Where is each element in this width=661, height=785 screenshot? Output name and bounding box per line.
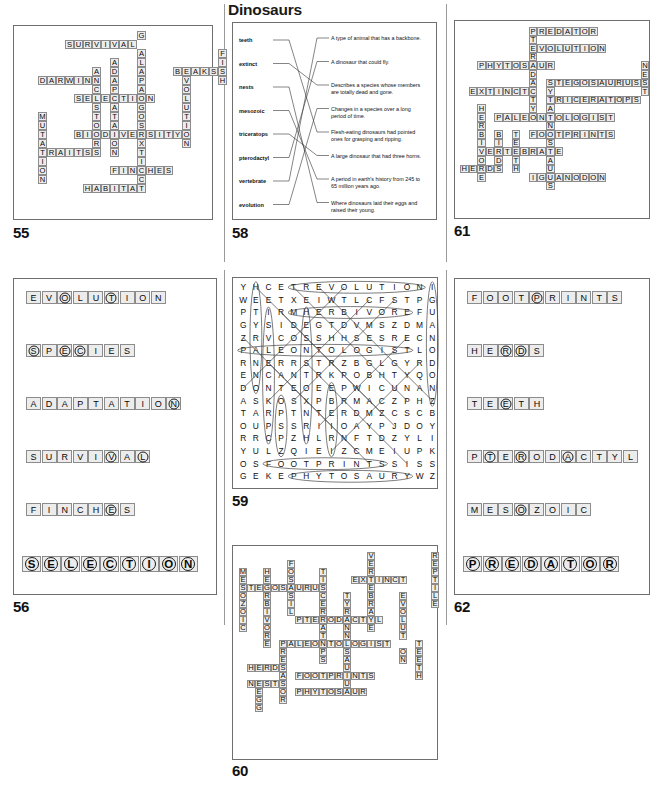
- crossword-cell[interactable]: O: [555, 113, 564, 122]
- crossword-cell[interactable]: E: [128, 130, 137, 139]
- word-search-letter[interactable]: H: [300, 306, 313, 319]
- word-search-letter[interactable]: B: [338, 306, 351, 319]
- word-search-letter[interactable]: S: [262, 319, 275, 332]
- word-search-letter[interactable]: W: [237, 294, 250, 307]
- letter-box[interactable]: A: [26, 397, 41, 410]
- word-search-letter[interactable]: S: [376, 319, 389, 332]
- word-search-letter[interactable]: E: [325, 382, 338, 395]
- crossword-cell[interactable]: U: [563, 44, 572, 53]
- crossword-cell[interactable]: T: [383, 640, 391, 648]
- word-search-letter[interactable]: H: [376, 369, 389, 382]
- crossword-cell[interactable]: T: [606, 96, 615, 105]
- word-search-letter[interactable]: U: [363, 281, 376, 294]
- word-search-letter[interactable]: K: [262, 394, 275, 407]
- word-search-letter[interactable]: H: [250, 281, 263, 294]
- word-search-letter[interactable]: C: [262, 281, 275, 294]
- crossword-cell[interactable]: O: [137, 112, 146, 121]
- word-search-letter[interactable]: Y: [401, 369, 414, 382]
- crossword-cell[interactable]: S: [319, 656, 327, 664]
- word-search-letter[interactable]: S: [388, 457, 401, 470]
- letter-box[interactable]: T: [514, 291, 529, 304]
- word-search-letter[interactable]: D: [350, 407, 363, 420]
- letter-box[interactable]: I: [561, 291, 576, 304]
- word-search-letter[interactable]: Q: [287, 445, 300, 458]
- letter-box[interactable]: D: [514, 344, 529, 357]
- crossword-cell[interactable]: O: [137, 94, 146, 103]
- word-search-letter[interactable]: C: [413, 407, 426, 420]
- word-search-letter[interactable]: W: [325, 294, 338, 307]
- crossword-cell[interactable]: N: [351, 672, 359, 680]
- word-search-letter[interactable]: T: [313, 344, 326, 357]
- word-search-letter[interactable]: G: [363, 357, 376, 370]
- letter-box[interactable]: I: [88, 344, 103, 357]
- letter-box[interactable]: T: [104, 291, 119, 304]
- crossword-cell[interactable]: N: [537, 113, 546, 122]
- word-search-letter[interactable]: C: [413, 331, 426, 344]
- word-search-letter[interactable]: I: [275, 319, 288, 332]
- crossword-cell[interactable]: R: [589, 96, 598, 105]
- letter-box[interactable]: I: [42, 503, 57, 516]
- crossword-cell[interactable]: S: [74, 94, 83, 103]
- word-search-letter[interactable]: T: [300, 369, 313, 382]
- word-search-letter[interactable]: V: [363, 306, 376, 319]
- word-search-letter[interactable]: I: [363, 382, 376, 395]
- crossword-cell[interactable]: S: [279, 584, 287, 592]
- crossword-cell[interactable]: S: [632, 79, 641, 88]
- crossword-cell[interactable]: F: [110, 166, 119, 175]
- word-search-letter[interactable]: N: [287, 369, 300, 382]
- word-search-letter[interactable]: G: [237, 319, 250, 332]
- crossword-cell[interactable]: A: [92, 67, 101, 76]
- letter-box[interactable]: S: [498, 503, 513, 516]
- letter-box[interactable]: E: [26, 291, 41, 304]
- word-search-letter[interactable]: R: [300, 420, 313, 433]
- crossword-cell[interactable]: A: [137, 67, 146, 76]
- word-search-letter[interactable]: O: [287, 457, 300, 470]
- word-search-letter[interactable]: O: [250, 382, 263, 395]
- crossword-cell[interactable]: U: [295, 584, 303, 592]
- word-search-letter[interactable]: I: [426, 432, 439, 445]
- crossword-cell[interactable]: A: [529, 79, 538, 88]
- word-search-letter[interactable]: O: [350, 344, 363, 357]
- word-search-letter[interactable]: R: [338, 394, 351, 407]
- crossword-cell[interactable]: I: [38, 157, 47, 166]
- crossword-cell[interactable]: T: [38, 130, 47, 139]
- word-search-letter[interactable]: O: [300, 382, 313, 395]
- word-search-letter[interactable]: U: [250, 445, 263, 458]
- crossword-cell[interactable]: M: [38, 112, 47, 121]
- crossword-cell[interactable]: V: [182, 76, 191, 85]
- word-search-letter[interactable]: U: [250, 420, 263, 433]
- word-search-letter[interactable]: S: [401, 407, 414, 420]
- word-search-letter[interactable]: A: [363, 470, 376, 483]
- crossword-cell[interactable]: S: [335, 688, 343, 696]
- word-search-letter[interactable]: S: [313, 331, 326, 344]
- word-search-letter[interactable]: C: [275, 331, 288, 344]
- crossword-cell[interactable]: T: [399, 576, 407, 584]
- word-search-letter[interactable]: P: [313, 457, 326, 470]
- crossword-cell[interactable]: T: [182, 112, 191, 121]
- word-search-letter[interactable]: P: [237, 344, 250, 357]
- word-search-letter[interactable]: A: [426, 319, 439, 332]
- word-search-letter[interactable]: E: [275, 281, 288, 294]
- crossword-cell[interactable]: V: [537, 44, 546, 53]
- letter-box[interactable]: R: [57, 450, 72, 463]
- letter-box[interactable]: C: [576, 450, 591, 463]
- word-search-letter[interactable]: A: [237, 394, 250, 407]
- word-search-letter[interactable]: W: [413, 470, 426, 483]
- letter-box[interactable]: S: [22, 556, 41, 572]
- word-search-letter[interactable]: Z: [376, 407, 389, 420]
- crossword-cell[interactable]: A: [110, 58, 119, 67]
- word-search-letter[interactable]: S: [287, 394, 300, 407]
- crossword-cell[interactable]: A: [92, 184, 101, 193]
- crossword-cell[interactable]: E: [477, 173, 486, 182]
- word-search-letter[interactable]: T: [325, 319, 338, 332]
- letter-box[interactable]: R: [514, 450, 529, 463]
- word-search-letter[interactable]: U: [388, 382, 401, 395]
- crossword-cell[interactable]: H: [486, 61, 495, 70]
- letter-box[interactable]: A: [120, 450, 135, 463]
- crossword-cell[interactable]: H: [83, 184, 92, 193]
- crossword-cell[interactable]: R: [56, 76, 65, 85]
- crossword-cell[interactable]: C: [391, 576, 399, 584]
- crossword-cell[interactable]: R: [537, 27, 546, 36]
- crossword-cell[interactable]: T: [164, 130, 173, 139]
- word-search-letter[interactable]: L: [376, 357, 389, 370]
